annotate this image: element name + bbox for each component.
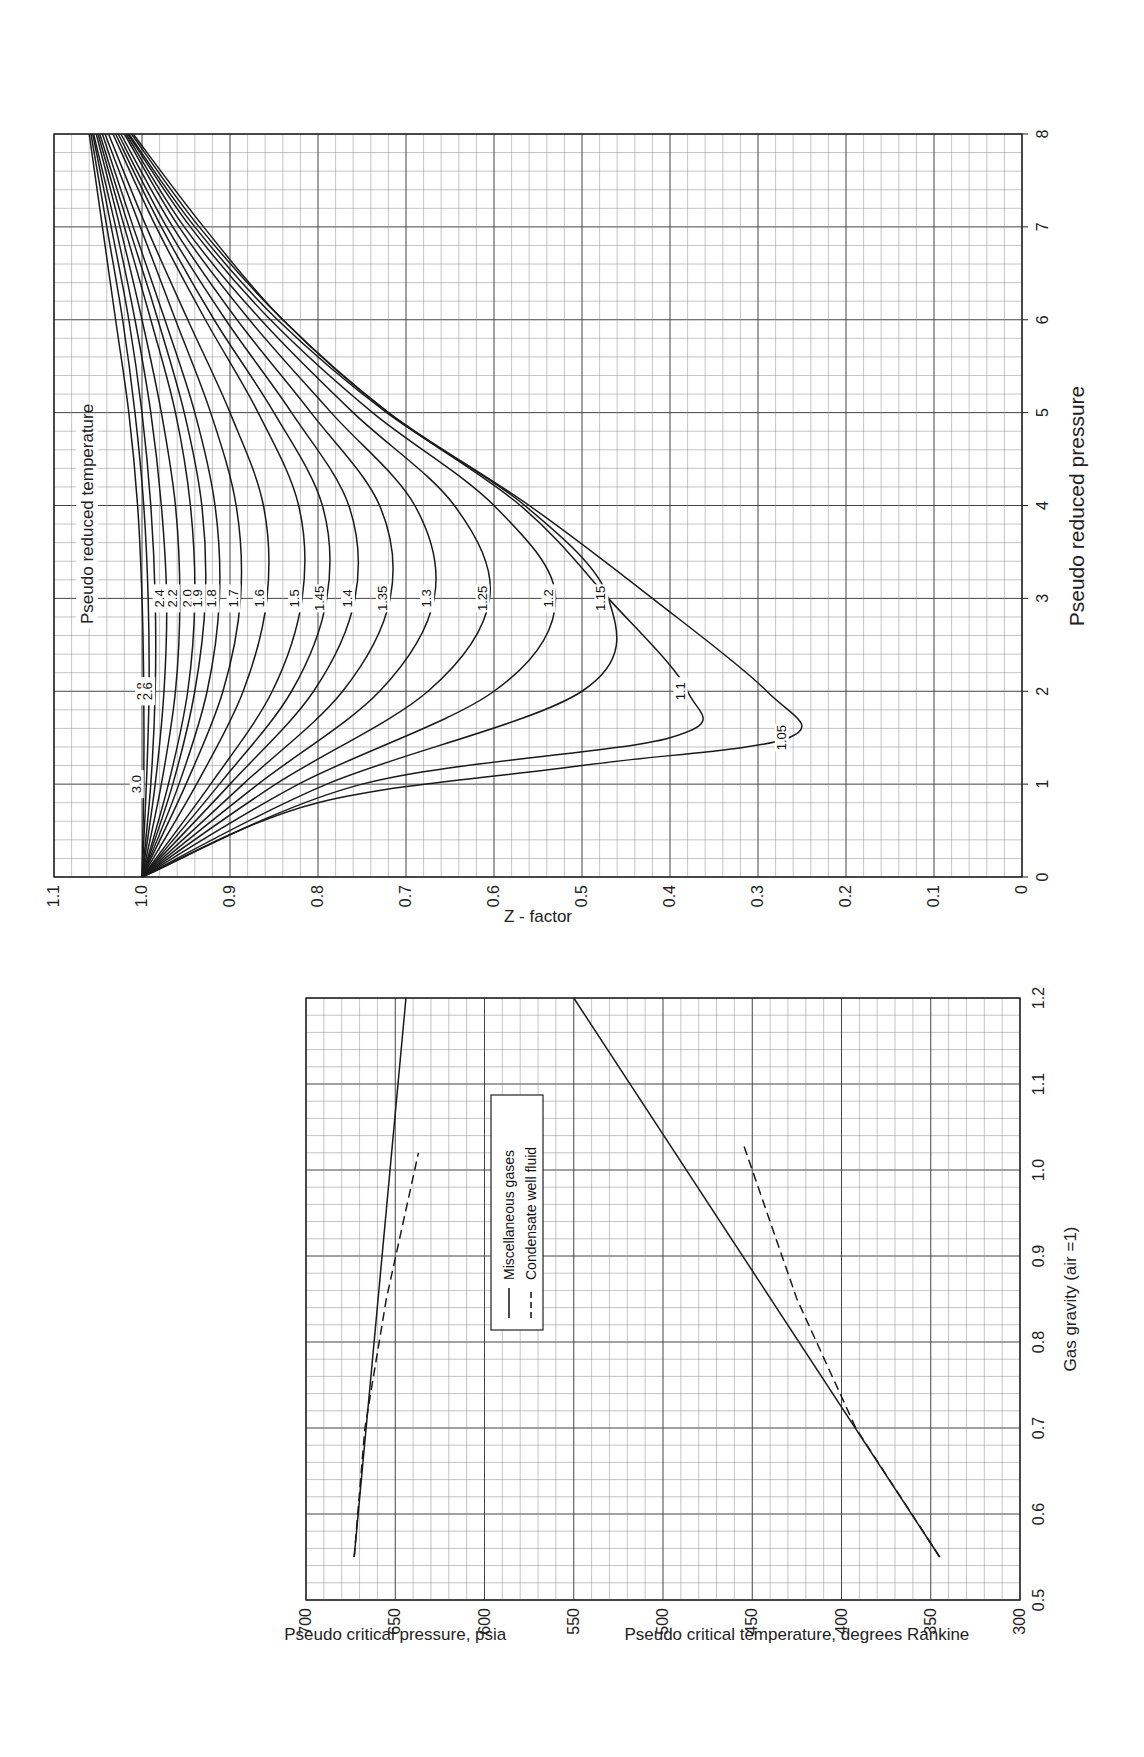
x-tick-label: 8	[1034, 129, 1051, 138]
z-curve-label-text: 1.6	[252, 589, 267, 607]
x-tick-label: 0.9	[1030, 1245, 1047, 1267]
pseudo-critical-series-0	[354, 998, 406, 1557]
y-tick-label: 0.1	[925, 885, 942, 907]
z-curve-label: 1.35	[375, 584, 390, 612]
gas-gravity-axis-title: Gas gravity (air =1)	[1061, 1226, 1080, 1371]
z-curve-label-text: 2.6	[140, 682, 155, 700]
z-curve-label: 1.8	[204, 584, 219, 612]
pseudo-critical-pressure-axis-title: Pseudo critical pressure, psia	[284, 1625, 507, 1644]
z-curve-label-text: 1.2	[541, 589, 556, 607]
pseudo-critical-temperature-axis-title: Pseudo critical temperature, degrees Ran…	[624, 1625, 969, 1644]
x-tick-label: 0.8	[1030, 1331, 1047, 1353]
z-curve-label-text: 1.25	[475, 586, 490, 611]
legend-label-condensate-well-fluid: Condensate well fluid	[523, 1147, 539, 1280]
x-tick-label: 1.0	[1030, 1159, 1047, 1181]
x-tick-label: 1	[1034, 780, 1051, 789]
z-curve-label: 1.4	[340, 584, 355, 612]
x-tick-label: 1.2	[1030, 987, 1047, 1009]
pseudo-reduced-temperature-label: Pseudo reduced temperature	[78, 404, 97, 624]
y-tick-label: 0.5	[573, 885, 590, 907]
pseudo-critical-curves	[354, 998, 939, 1557]
x-tick-label: 2	[1034, 687, 1051, 696]
x-tick-label: 5	[1034, 408, 1051, 417]
z-curve-label: 1.25	[475, 584, 490, 612]
pseudo-critical-grid	[306, 998, 1020, 1600]
x-tick-label: 1.1	[1030, 1073, 1047, 1095]
z-curve-label: 2.2	[165, 584, 180, 612]
z-curve-label-text: 1.05	[774, 725, 789, 750]
z-curve-label-text: 2.2	[165, 589, 180, 607]
z-curve-label: 1.9	[190, 584, 205, 612]
y-tick-label: 0.4	[661, 885, 678, 907]
z-curve-label: 1.3	[419, 584, 434, 612]
x-tick-label: 4	[1034, 501, 1051, 510]
z-curve-label-text: 1.35	[375, 586, 390, 611]
z-factor-x-axis-title: Pseudo reduced pressure	[1065, 386, 1088, 627]
z-factor-chart: 3.02.82.62.42.22.01.91.81.71.61.51.451.4…	[45, 129, 1088, 926]
z-curve-label: 1.7	[226, 584, 241, 612]
y-tick-label: 550	[565, 1608, 582, 1635]
y-tick-label: 0.8	[309, 885, 326, 907]
z-curve-label-text: 3.0	[129, 775, 144, 793]
z-curve-label: 1.1	[673, 677, 688, 705]
z-curve-label-text: 1.45	[312, 586, 327, 611]
pseudo-critical-x-ticks: 0.50.60.70.80.91.01.11.2	[1030, 987, 1047, 1611]
y-tick-label: 300	[1011, 1608, 1028, 1635]
y-tick-label: 0	[1013, 885, 1030, 894]
z-curve-label: 1.2	[541, 584, 556, 612]
z-curve-label: 3.0	[129, 770, 144, 798]
legend: Miscellaneous gases Condensate well flui…	[491, 1095, 543, 1330]
z-curve-label-text: 1.5	[287, 589, 302, 607]
y-tick-label: 0.3	[749, 885, 766, 907]
x-tick-label: 0.6	[1030, 1503, 1047, 1525]
x-tick-label: 0.7	[1030, 1417, 1047, 1439]
z-curve-label-text: 1.15	[593, 586, 608, 611]
z-curve-label: 1.05	[774, 724, 789, 752]
z-curve-label: 1.5	[287, 584, 302, 612]
legend-label-miscellaneous-gases: Miscellaneous gases	[501, 1150, 517, 1280]
z-curve-label: 2.6	[140, 677, 155, 705]
x-tick-label: 7	[1034, 222, 1051, 231]
z-curve-label-text: 1.4	[340, 589, 355, 607]
z-curve-label: 1.15	[593, 584, 608, 612]
y-tick-label: 0.7	[397, 885, 414, 907]
chart-canvas: 3.02.82.62.42.22.01.91.81.71.61.51.451.4…	[0, 0, 1144, 1757]
z-curve-label-text: 1.3	[419, 589, 434, 607]
x-tick-label: 0.5	[1030, 1589, 1047, 1611]
x-tick-label: 3	[1034, 594, 1051, 603]
z-curve-label: 1.45	[312, 584, 327, 612]
z-factor-y-ticks: 00.10.20.30.40.50.60.70.80.91.01.1	[45, 885, 1030, 907]
x-tick-label: 6	[1034, 315, 1051, 324]
y-tick-label: 0.9	[221, 885, 238, 907]
z-factor-x-ticks: 012345678	[1022, 129, 1051, 881]
z-curve-label: 1.6	[252, 584, 267, 612]
y-tick-label: 0.6	[485, 885, 502, 907]
z-factor-y-axis-title: Z - factor	[504, 907, 572, 926]
y-tick-label: 1.0	[133, 885, 150, 907]
z-factor-grid	[54, 134, 1022, 877]
y-tick-label: 0.2	[837, 885, 854, 907]
pseudo-reduced-temperature-annotation: Pseudo reduced temperature	[76, 404, 98, 629]
z-curve-label-text: 1.9	[190, 589, 205, 607]
z-curve-label-text: 1.1	[673, 682, 688, 700]
y-tick-label: 1.1	[45, 885, 62, 907]
z-curve-label-text: 1.7	[226, 589, 241, 607]
pseudo-critical-chart: 0.50.60.70.80.91.01.11.2 300350400450500…	[284, 987, 1080, 1644]
z-curve-label-text: 1.8	[204, 589, 219, 607]
x-tick-label: 0	[1034, 872, 1051, 881]
